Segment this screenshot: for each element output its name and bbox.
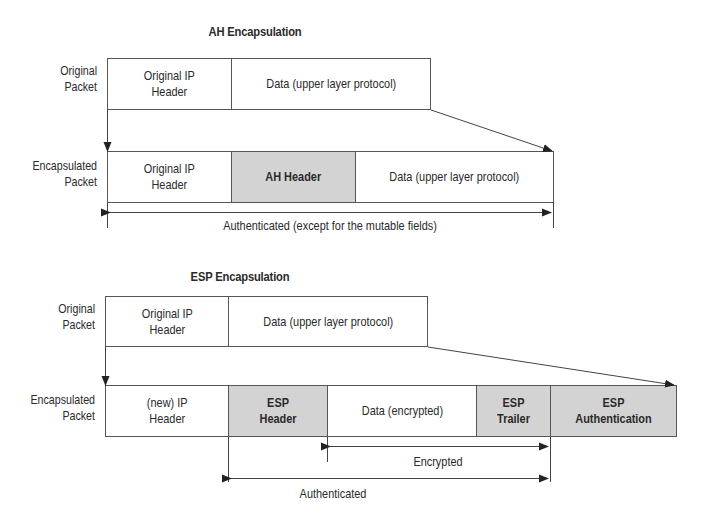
ah-original-data-field: Data (upper layer protocol) — [231, 58, 431, 110]
ah-header-field: AH Header — [231, 151, 356, 203]
ah-original-ip-header-field: Original IPHeader — [107, 58, 232, 110]
ah-original-packet-label: Original Packet — [7, 63, 97, 95]
ah-diagonal-arrow-icon — [431, 110, 552, 151]
esp-diagonal-arrow-icon — [428, 347, 674, 385]
esp-authenticated-label: Authenticated — [300, 486, 367, 501]
esp-original-data-field: Data (upper layer protocol) — [228, 296, 428, 347]
ah-encap-data-field: Data (upper layer protocol) — [355, 151, 554, 203]
esp-encrypted-label: Encrypted — [413, 454, 462, 469]
esp-original-ip-header-field: Original IPHeader — [105, 296, 229, 347]
esp-trailer-field: ESPTrailer — [476, 385, 551, 437]
esp-title: ESP Encapsulation — [176, 269, 305, 284]
esp-encapsulated-packet-label: Encapsulated Packet — [5, 392, 95, 424]
ah-encapsulated-packet-label: Encapsulated Packet — [7, 158, 97, 190]
esp-original-packet-label: Original Packet — [5, 301, 95, 333]
esp-new-ip-header-field: (new) IPHeader — [105, 385, 229, 437]
ah-authenticated-label: Authenticated (except for the mutable fi… — [223, 218, 437, 233]
esp-data-encrypted-field: Data (encrypted) — [327, 385, 477, 437]
esp-header-field: ESPHeader — [228, 385, 328, 437]
ah-title: AH Encapsulation — [191, 24, 320, 39]
ah-encap-ip-header-field: Original IPHeader — [107, 151, 232, 203]
esp-authentication-field: ESPAuthentication — [550, 385, 677, 437]
